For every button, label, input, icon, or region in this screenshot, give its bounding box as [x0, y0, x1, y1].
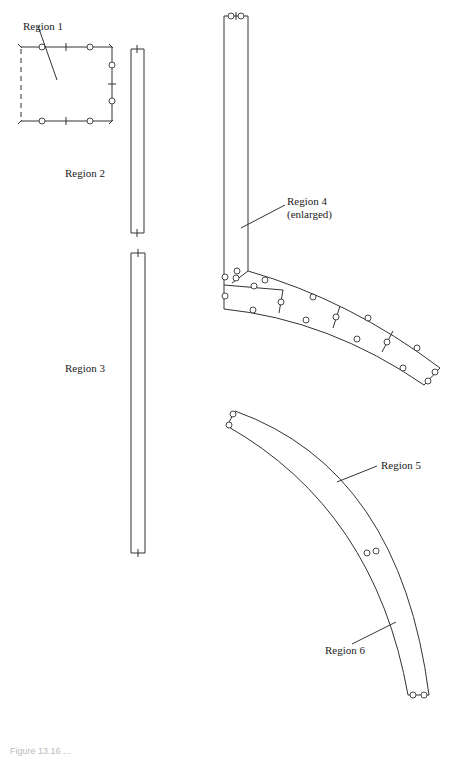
region-4-label-line2: (enlarged) [287, 208, 332, 221]
region-1-mesh [18, 26, 116, 125]
region-3-mesh [131, 249, 145, 557]
region-1-label: Region 1 [23, 20, 63, 33]
region-6-label: Region 6 [325, 644, 365, 657]
mesh-diagram [0, 0, 452, 757]
region-4-label-line1: Region 4 [287, 195, 327, 208]
figure-caption: Figure 13.16 ... [10, 746, 71, 756]
region-5-label: Region 5 [381, 459, 421, 472]
region-2-label: Region 2 [65, 167, 105, 180]
region-4-mesh [222, 12, 440, 385]
region-2-mesh [131, 45, 144, 237]
region-3-label: Region 3 [65, 362, 105, 375]
